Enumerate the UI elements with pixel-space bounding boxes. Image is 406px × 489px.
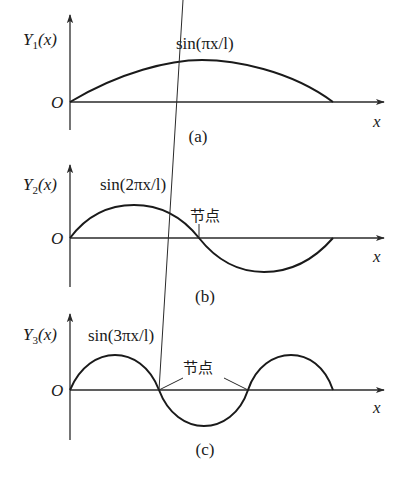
node-leader-1	[159, 378, 183, 390]
node-label: 节点	[183, 359, 213, 377]
origin-label: O	[51, 229, 63, 248]
standing-wave-modes-diagram: Y1(x) sin(πx/l) O x (a) Y2(x) sin(2πx/l)…	[0, 0, 406, 489]
panel-b: Y2(x) sin(2πx/l) 节点 O x (b)	[23, 165, 384, 306]
x-axis-label: x	[372, 398, 381, 417]
node-leader-2	[224, 378, 248, 390]
origin-label: O	[51, 93, 63, 112]
y-axis-label: Y3(x)	[23, 325, 57, 346]
curve-label: sin(πx/l)	[176, 34, 234, 53]
curve-label: sin(3πx/l)	[88, 326, 154, 345]
y-axis-label: Y2(x)	[23, 175, 57, 196]
panel-caption: (b)	[195, 287, 215, 306]
x-axis-label: x	[372, 112, 381, 131]
node-label: 节点	[190, 207, 220, 225]
panel-caption: (a)	[189, 127, 208, 146]
panel-caption: (c)	[196, 440, 215, 459]
origin-label: O	[51, 381, 63, 400]
mode-1-curve	[70, 60, 333, 102]
node-leader-1	[159, 0, 183, 390]
curve-label: sin(2πx/l)	[100, 175, 166, 194]
panel-a: Y1(x) sin(πx/l) O x (a)	[23, 15, 384, 146]
x-axis-label: x	[372, 247, 381, 266]
y-axis-label: Y1(x)	[23, 30, 57, 51]
